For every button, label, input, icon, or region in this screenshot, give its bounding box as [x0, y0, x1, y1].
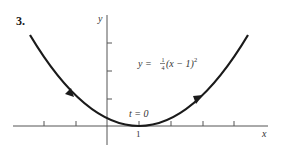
equation-exponent: 2	[194, 56, 197, 63]
equation-coef-num: 1	[162, 57, 165, 63]
equation-rest: (x − 1)	[166, 58, 195, 70]
y-ticks	[107, 43, 112, 99]
x-axis-label: x	[261, 128, 267, 139]
parabola-figure: y x 1 y = 1 4 (x − 1) 2 t = 0	[0, 0, 282, 145]
x-tick-label-1: 1	[136, 129, 141, 139]
equation-coef-den: 4	[162, 65, 165, 71]
y-axis-label: y	[97, 13, 103, 24]
t-zero-annotation: t = 0	[129, 108, 149, 119]
equation-label: y = 1 4 (x − 1) 2	[137, 56, 197, 71]
equation-lhs: y =	[137, 58, 152, 69]
